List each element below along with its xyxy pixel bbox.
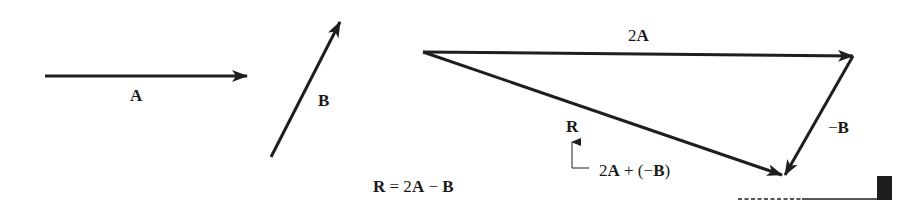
equation-lhs: R (373, 177, 386, 196)
sum-close-paren: ) (664, 161, 670, 180)
vector-neg-b-arrow-icon (785, 56, 853, 175)
vector-neg-b-label: −B (828, 118, 849, 137)
resultant-sum-expression: 2A + (−B) (599, 161, 670, 180)
sum-vector-b: B (653, 161, 664, 180)
vector-neg-b-symbol: B (838, 118, 849, 137)
vector-diagram: A B 2A −B R 2A + (−B) R = 2A − B (0, 0, 919, 206)
vector-r (423, 52, 782, 175)
sum-vector-a: A (608, 161, 621, 180)
vector-r-arrow-icon (423, 52, 782, 175)
vector-2a-symbol: A (637, 26, 650, 45)
vector-2a: 2A (423, 26, 853, 56)
vector-2a-label: 2A (628, 26, 650, 45)
equation-a: A (412, 177, 425, 196)
equation: R = 2A − B (373, 177, 454, 196)
vector-b-label: B (318, 91, 329, 110)
resultant-label: R (566, 117, 579, 136)
vector-a-label: A (130, 86, 143, 105)
sum-scalar: 2 (599, 161, 608, 180)
resultant-annotation: R 2A + (−B) (566, 117, 670, 180)
sum-operator: + (− (620, 161, 653, 180)
vector-neg-b-sign: − (828, 118, 838, 137)
vector-b-arrow-icon (271, 22, 340, 157)
equation-minus: − (424, 177, 442, 196)
equation-equals: = 2 (385, 177, 412, 196)
vector-b: B (271, 22, 340, 157)
page-edge-marker (738, 176, 892, 200)
vector-a: A (45, 76, 247, 105)
vector-neg-b: −B (785, 56, 853, 175)
vector-2a-scalar: 2 (628, 26, 637, 45)
equation-b: B (442, 177, 453, 196)
black-block-icon (877, 176, 892, 200)
vector-2a-arrow-icon (423, 52, 853, 56)
